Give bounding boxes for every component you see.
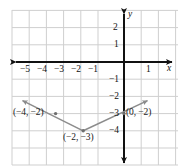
point-marker-left xyxy=(54,112,57,115)
point-label-right: (0, −2) xyxy=(126,108,151,118)
y-tick-label-minus2: −2 xyxy=(109,92,119,102)
y-axis-name: y xyxy=(128,10,132,20)
x-tick-label-minus5: −5 xyxy=(20,65,30,75)
x-tick-label-minus3: −3 xyxy=(54,65,64,75)
y-tick-label-2: 2 xyxy=(113,23,118,33)
y-tick-label-minus1: −1 xyxy=(109,75,119,85)
y-tick-label-minus3: −3 xyxy=(109,109,119,119)
x-axis-name: x xyxy=(167,64,171,74)
x-tick-label-minus2: −2 xyxy=(71,65,81,75)
y-tick-label-minus4: −4 xyxy=(109,126,119,136)
coordinate-graph-figure: −5 −4 −3 −2 −1 1 2 1 −1 −2 −3 −4 x y (−4… xyxy=(0,0,180,167)
point-label-vertex: (−2, −3) xyxy=(63,133,94,143)
x-tick-label-1: 1 xyxy=(146,65,151,75)
point-label-left: (−4, −2) xyxy=(13,108,44,118)
x-tick-label-minus4: −4 xyxy=(37,65,47,75)
y-tick-label-1: 1 xyxy=(114,40,119,50)
x-tick-label-minus1: −1 xyxy=(88,65,98,75)
